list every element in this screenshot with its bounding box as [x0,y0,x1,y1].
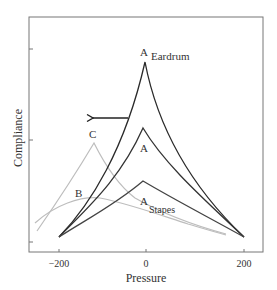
tympanogram-chart: A Eardrum A A Stapes C B −200 0 200 Pres… [0,0,277,290]
y-axis-label: Compliance [11,109,25,167]
x-tick-200: 200 [237,258,252,269]
y-axis-ticks [29,49,33,242]
series-middle-curve [59,128,244,237]
label-b: B [75,187,82,199]
label-a-middle: A [140,142,148,154]
label-a-eardrum: A [140,46,148,58]
x-axis-label: Pressure [126,271,167,285]
series-b-curve [35,198,226,235]
label-eardrum: Eardrum [151,50,190,62]
series-c-curve [37,143,226,234]
label-a-stapes: A [140,195,148,207]
label-stapes: Stapes [149,204,175,215]
label-c: C [89,128,96,140]
x-tick-neg200: −200 [49,258,70,269]
x-tick-0: 0 [144,258,149,269]
